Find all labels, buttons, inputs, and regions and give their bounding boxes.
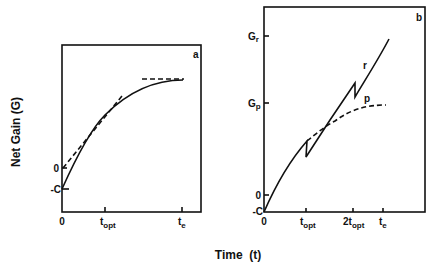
panel-a-ytick-zero-label: 0 [53,163,59,174]
panel-a-xtick-te-label: te [178,216,186,230]
panel-b-ytick-gp-label: Gp [248,98,261,111]
panel-a-xtick-zero-label: 0 [59,216,65,227]
panel-a-ytick-neg-c-label: -C [50,184,61,195]
panel-b-tag: b [416,12,422,23]
panel-a-gain-curve [62,80,183,189]
figure: Net Gain (G) Time (t) a 0 -C 0 topt te b [0,0,435,274]
panel-b-ytick-gr-label: Gr [248,31,259,44]
panel-b: b Gr Gp 0 -C 0 topt 2topt te r p [248,7,425,230]
panel-a-xtick-topt-label: topt [100,216,116,230]
panel-b-curve-r [264,39,389,212]
panel-b-xtick-2topt-label: 2topt [343,216,365,230]
panel-b-curve-p-label: p [364,93,370,104]
panel-b-frame [264,7,425,212]
panel-b-ytick-zero-label: 0 [255,190,261,201]
x-axis-label: Time (t) [215,248,261,262]
panel-a-tag: a [193,49,199,60]
panel-b-xtick-topt-label: topt [300,216,316,230]
panel-b-xtick-te-label: te [379,216,387,230]
y-axis-label: Net Gain (G) [9,97,23,167]
panel-a: a 0 -C 0 topt te [50,45,201,230]
panel-a-frame [62,45,201,212]
panel-b-xtick-zero-label: 0 [261,216,267,227]
panel-b-curve-r-label: r [363,60,367,71]
